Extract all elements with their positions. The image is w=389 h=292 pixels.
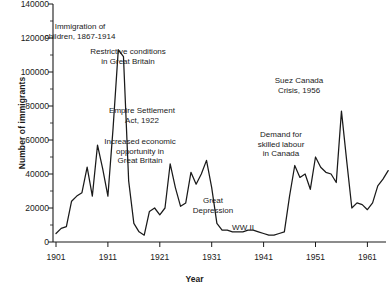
annotation-immigration-children: Immigration of children, 1867-1914 (20, 22, 140, 41)
x-tick-1921: 1921 (140, 252, 180, 262)
annotation-empire-settlement: Empire Settlement Act, 1922 (82, 106, 202, 125)
x-tick-1911: 1911 (88, 252, 128, 262)
annotation-restrictive-conditions: Restrictive conditions in Great Britain (68, 47, 188, 66)
annotation-increased-economic: Increased economic opportunity in Great … (80, 137, 200, 166)
annotation-ww2: WW II (223, 223, 263, 233)
x-tick-1951: 1951 (296, 252, 336, 262)
x-tick-1961: 1961 (347, 252, 387, 262)
annotation-great-depression: Great Depression (183, 196, 243, 215)
annotation-demand-skilled-labour: Demand for skilled labour in Canada (241, 130, 321, 159)
x-tick-1931: 1931 (192, 252, 232, 262)
immigration-line-chart: 0 20000 40000 60000 80000 100000 120000 … (0, 0, 389, 292)
x-axis-ticks (56, 242, 367, 247)
annotation-suez-crisis: Suez Canada Crisis, 1956 (249, 76, 349, 95)
x-tick-1901: 1901 (36, 252, 76, 262)
x-tick-1941: 1941 (244, 252, 284, 262)
x-axis-label: Year (0, 274, 389, 284)
